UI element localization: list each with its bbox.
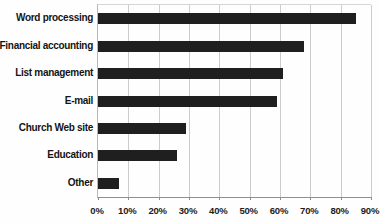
tick-mark-70%: [310, 197, 311, 200]
tick-mark-0%: [98, 197, 99, 200]
bar-word-processing: [98, 13, 356, 24]
x-tick-label: 30%: [179, 205, 197, 216]
bar-church-web-site: [98, 123, 186, 134]
category-label: Education: [47, 148, 93, 161]
bar-education: [98, 150, 177, 161]
x-tick-label: 40%: [209, 205, 227, 216]
x-tick-label: 10%: [118, 205, 136, 216]
gridline-70%: [310, 5, 311, 197]
category-label: E-mail: [65, 94, 93, 107]
x-tick-label: 20%: [148, 205, 166, 216]
tick-mark-20%: [159, 197, 160, 200]
x-tick-label: 70%: [300, 205, 318, 216]
category-label: Financial accounting: [0, 39, 93, 52]
tick-mark-10%: [128, 197, 129, 200]
x-tick-label: 60%: [270, 205, 288, 216]
bar-chart: 0%10%20%30%40%50%60%70%80%90%Word proces…: [0, 0, 381, 223]
category-label: Word processing: [16, 11, 93, 24]
tick-mark-90%: [371, 197, 372, 200]
gridline-90%: [371, 5, 372, 197]
category-label: Other: [68, 176, 93, 189]
x-tick-label: 90%: [361, 205, 379, 216]
x-tick-label: 80%: [330, 205, 348, 216]
bar-other: [98, 178, 119, 189]
tick-mark-80%: [341, 197, 342, 200]
x-tick-label: 0%: [90, 205, 103, 216]
category-label: Church Web site: [19, 121, 93, 134]
tick-mark-60%: [280, 197, 281, 200]
gridline-60%: [280, 5, 281, 197]
tick-mark-40%: [219, 197, 220, 200]
x-tick-label: 50%: [239, 205, 257, 216]
bar-financial-accounting: [98, 41, 304, 52]
gridline-80%: [341, 5, 342, 197]
bar-list-management: [98, 68, 283, 79]
bar-e-mail: [98, 96, 277, 107]
tick-mark-30%: [189, 197, 190, 200]
plot-area: [97, 4, 371, 198]
tick-mark-50%: [250, 197, 251, 200]
category-label: List management: [15, 66, 93, 79]
